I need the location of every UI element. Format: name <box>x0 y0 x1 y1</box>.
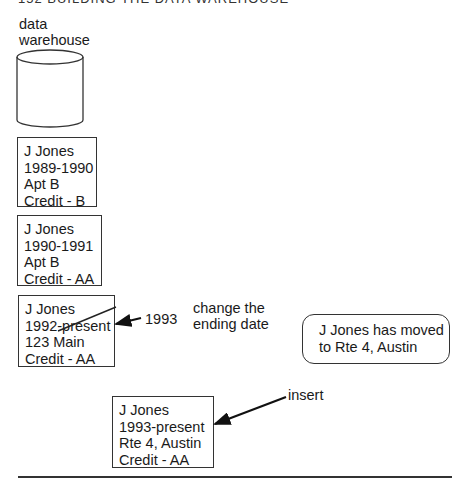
bottom-rule <box>18 476 452 478</box>
strikethrough-line <box>58 307 116 331</box>
insert-arrow-icon <box>215 397 286 424</box>
update-arrow-icon <box>116 318 141 324</box>
arrows-overlay <box>0 0 460 486</box>
